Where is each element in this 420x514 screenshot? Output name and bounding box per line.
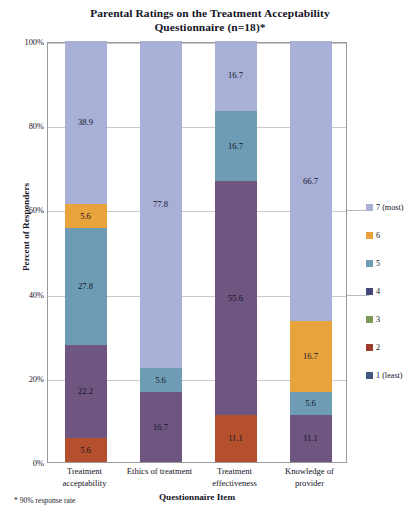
legend-item[interactable]: 7 (most) bbox=[366, 193, 420, 221]
bar-column[interactable]: 11.155.616.716.7 bbox=[215, 43, 257, 462]
legend-swatch-icon bbox=[366, 344, 373, 351]
bar-segment[interactable]: 5.6 bbox=[65, 438, 107, 462]
y-axis-tick-labels: 0%20%40%60%80%100% bbox=[0, 42, 44, 463]
y-axis-tick-label: 20% bbox=[0, 374, 44, 383]
x-axis-tick-label: Treatmenteffectiveness bbox=[193, 466, 277, 489]
stacked-bar-chart: Parental Ratings on the Treatment Accept… bbox=[0, 0, 420, 514]
y-axis-tick-label: 80% bbox=[0, 122, 44, 131]
legend-item-label: 7 (most) bbox=[376, 203, 404, 212]
legend-item[interactable]: 6 bbox=[366, 221, 420, 249]
bar-segment[interactable]: 11.1 bbox=[290, 415, 332, 462]
bar-segment[interactable]: 55.6 bbox=[215, 181, 257, 415]
bar-segment[interactable]: 16.7 bbox=[290, 321, 332, 391]
x-axis-tick-label-line: Treatment bbox=[43, 466, 127, 478]
legend: 7 (most)654321 (least) bbox=[366, 193, 420, 389]
x-axis-tick-label-line: Knowledge of bbox=[268, 466, 352, 478]
chart-title-line-1: Parental Ratings on the Treatment Accept… bbox=[40, 6, 380, 20]
bar-segment-value-label: 5.6 bbox=[305, 399, 316, 408]
bar-segment-value-label: 16.7 bbox=[228, 142, 243, 151]
x-axis-tick-label-line: Treatment bbox=[193, 466, 277, 478]
x-axis-tick-label: Treatmentacceptability bbox=[43, 466, 127, 489]
bar-segment[interactable]: 16.7 bbox=[215, 111, 257, 181]
bar-column[interactable]: 11.15.616.766.7 bbox=[290, 43, 332, 462]
bar-segment-value-label: 16.7 bbox=[303, 352, 318, 361]
bar-segment[interactable]: 11.1 bbox=[215, 415, 257, 462]
legend-item-label: 3 bbox=[376, 315, 380, 324]
bar-segment-value-label: 77.8 bbox=[153, 200, 168, 209]
legend-item-label: 5 bbox=[376, 259, 380, 268]
bar-segment-value-label: 11.1 bbox=[303, 434, 318, 443]
bar-segment-value-label: 38.9 bbox=[78, 118, 93, 127]
bar-segment-value-label: 16.7 bbox=[228, 71, 243, 80]
bar-segment[interactable]: 5.6 bbox=[290, 392, 332, 416]
legend-swatch-icon bbox=[366, 260, 373, 267]
bar-segment[interactable]: 66.7 bbox=[290, 41, 332, 322]
bar-segment[interactable]: 16.7 bbox=[215, 41, 257, 111]
x-axis-tick-label-line: effectiveness bbox=[193, 478, 277, 490]
bar-column[interactable]: 5.622.227.85.638.9 bbox=[65, 43, 107, 462]
y-axis-tick-label: 60% bbox=[0, 206, 44, 215]
legend-item[interactable]: 1 (least) bbox=[366, 361, 420, 389]
legend-item-label: 1 (least) bbox=[376, 371, 403, 380]
legend-swatch-icon bbox=[366, 232, 373, 239]
bar-segment-value-label: 11.1 bbox=[228, 434, 243, 443]
bar-segment[interactable]: 22.2 bbox=[65, 345, 107, 438]
bar-column[interactable]: 16.75.677.8 bbox=[140, 43, 182, 462]
legend-item-label: 4 bbox=[376, 287, 380, 296]
bar-segment-value-label: 55.6 bbox=[228, 294, 243, 303]
chart-title: Parental Ratings on the Treatment Accept… bbox=[40, 6, 380, 34]
footnote: * 90% response rate bbox=[14, 496, 75, 505]
y-axis-tick-label: 0% bbox=[0, 459, 44, 468]
plot-area: 5.622.227.85.638.916.75.677.811.155.616.… bbox=[47, 42, 347, 463]
legend-swatch-icon bbox=[366, 204, 373, 211]
bar-segment[interactable]: 5.6 bbox=[140, 368, 182, 392]
x-axis-tick-label: Knowledge ofprovider bbox=[268, 466, 352, 489]
legend-item-label: 2 bbox=[376, 343, 380, 352]
y-axis-tick-label: 100% bbox=[0, 38, 44, 47]
legend-item-label: 6 bbox=[376, 231, 380, 240]
bar-segment-value-label: 22.2 bbox=[78, 387, 93, 396]
bar-segment[interactable]: 27.8 bbox=[65, 228, 107, 345]
bar-segment-value-label: 5.6 bbox=[155, 376, 166, 385]
bar-segment[interactable]: 16.7 bbox=[140, 392, 182, 462]
bar-segment-value-label: 16.7 bbox=[153, 423, 168, 432]
bar-segment-value-label: 27.8 bbox=[78, 282, 93, 291]
bar-segment-value-label: 5.6 bbox=[80, 212, 91, 221]
chart-title-line-2: Questionnaire (n=18)* bbox=[40, 20, 380, 34]
x-axis-tick-label-line: acceptability bbox=[43, 478, 127, 490]
x-axis-title: Questionnaire Item bbox=[47, 492, 347, 502]
legend-swatch-icon bbox=[366, 288, 373, 295]
bar-segment[interactable]: 38.9 bbox=[65, 41, 107, 205]
bar-segment-value-label: 5.6 bbox=[80, 446, 91, 455]
y-axis-tick-label: 40% bbox=[0, 290, 44, 299]
legend-item[interactable]: 2 bbox=[366, 333, 420, 361]
legend-item[interactable]: 3 bbox=[366, 305, 420, 333]
x-axis-tick-label-line: provider bbox=[268, 478, 352, 490]
legend-item[interactable]: 4 bbox=[366, 277, 420, 305]
x-axis-tick-label-line: Ethics of treatment bbox=[118, 466, 202, 478]
bar-segment[interactable]: 5.6 bbox=[65, 204, 107, 228]
bar-segment-value-label: 66.7 bbox=[303, 177, 318, 186]
x-axis-tick-label: Ethics of treatment bbox=[118, 466, 202, 478]
legend-swatch-icon bbox=[366, 372, 373, 379]
legend-swatch-icon bbox=[366, 316, 373, 323]
bar-segment[interactable]: 77.8 bbox=[140, 41, 182, 369]
legend-item[interactable]: 5 bbox=[366, 249, 420, 277]
